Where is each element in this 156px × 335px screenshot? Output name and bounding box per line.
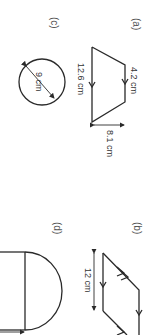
figure-d-label: (d): [52, 222, 63, 234]
circle-diameter-label: 9 cm: [34, 72, 44, 92]
figure-a-label: (a): [131, 18, 142, 30]
trapezium-height-label: 8.1 cm: [105, 130, 115, 157]
figure-c-label: (c): [49, 17, 60, 29]
parallelogram-side-label: 12 cm: [83, 268, 93, 293]
figure-b-label: (b): [132, 222, 143, 234]
trapezium-figure: [89, 47, 128, 122]
parallelogram-figure: [100, 253, 142, 335]
figures-canvas: [0, 0, 156, 335]
trapezium-top-side-label: 4.2 cm: [129, 67, 139, 94]
composite-figure: [0, 252, 62, 330]
trapezium-bottom-side-label: 12.6 cm: [76, 63, 86, 95]
